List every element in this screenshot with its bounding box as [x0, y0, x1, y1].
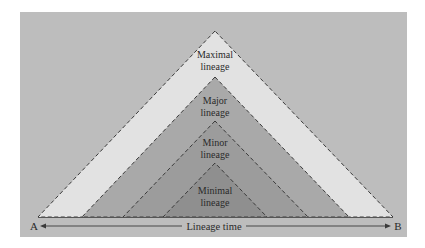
- major-label-line2: lineage: [201, 107, 230, 118]
- maximal-label-line1: Maximal: [197, 49, 233, 60]
- axis-end-label: B: [394, 220, 401, 232]
- maximal-label-line2: lineage: [201, 61, 230, 72]
- minimal-label-line2: lineage: [201, 197, 230, 208]
- minimal-label-line1: Minimal: [198, 185, 233, 196]
- axis-label: Lineage time: [186, 221, 241, 232]
- minor-label-line1: Minor: [203, 137, 229, 148]
- major-label-line1: Major: [203, 95, 228, 106]
- minor-label-line2: lineage: [201, 149, 230, 160]
- axis-start-label: A: [30, 220, 38, 232]
- lineage-diagram: Maximal lineage Major lineage Minor line…: [0, 0, 425, 248]
